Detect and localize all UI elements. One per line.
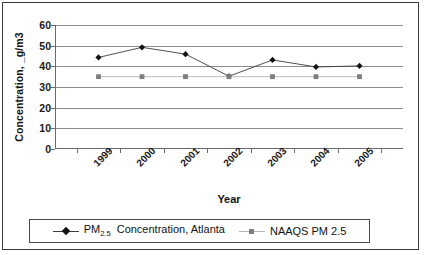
x-axis-tick-labels: 1999200020012002200320042005 — [55, 153, 403, 195]
data-point-marker — [95, 54, 101, 60]
legend-marker-square-icon — [239, 226, 265, 236]
y-axis-tick-label: 10 — [7, 123, 51, 134]
legend-marker-diamond-icon — [53, 226, 79, 236]
data-point-marker — [139, 44, 145, 50]
legend-label-naaqs: NAAQS PM 2.5 — [270, 225, 346, 237]
y-axis-tick-labels: 0102030405060 — [3, 25, 51, 149]
data-point-marker — [314, 74, 319, 79]
x-axis-title: Year — [55, 193, 403, 205]
y-axis-tick-label: 0 — [7, 144, 51, 155]
data-series-layer — [55, 25, 403, 149]
y-axis-tick-label: 20 — [7, 102, 51, 113]
data-point-marker — [140, 74, 145, 79]
plot-area — [55, 25, 403, 149]
chart-legend: PM2.5 Concentration, Atlanta NAAQS PM 2.… — [29, 219, 370, 243]
legend-item-pm25[interactable]: PM2.5 Concentration, Atlanta — [53, 223, 225, 238]
data-point-marker — [356, 63, 362, 69]
y-axis-tick-label: 50 — [7, 40, 51, 51]
data-point-marker — [183, 74, 188, 79]
data-point-marker — [269, 57, 275, 63]
data-point-marker — [270, 74, 275, 79]
y-axis-tick-label: 30 — [7, 82, 51, 93]
y-axis-tick-label: 40 — [7, 61, 51, 72]
data-point-marker — [313, 64, 319, 70]
legend-label-pm25: PM2.5 Concentration, Atlanta — [84, 223, 225, 238]
chart-frame: Concentration, _g/m3 0102030405060 19992… — [2, 2, 419, 250]
data-point-marker — [182, 51, 188, 57]
data-point-marker — [227, 74, 232, 79]
series-line — [99, 47, 360, 76]
data-point-marker — [357, 74, 362, 79]
y-axis-tick-label: 60 — [7, 20, 51, 31]
legend-item-naaqs[interactable]: NAAQS PM 2.5 — [239, 225, 346, 237]
y-axis-tick-mark — [51, 149, 55, 150]
data-point-marker — [96, 74, 101, 79]
